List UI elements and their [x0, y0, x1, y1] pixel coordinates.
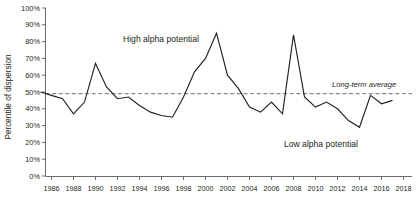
x-tick-label: 1988 [66, 184, 82, 193]
y-axis-title-text: Percentile of dispersion [4, 54, 13, 140]
chart-container: Percentile of dispersion 100% 90% 80% 70… [0, 0, 418, 205]
y-axis-title: Percentile of dispersion [4, 54, 13, 140]
y-tick-label: 20% [25, 138, 40, 147]
x-tick-label: 1986 [44, 184, 60, 193]
x-tick-label: 2010 [308, 184, 324, 193]
long-term-average-label: Long-term average [332, 80, 396, 89]
y-tick-label: 100% [21, 4, 40, 13]
x-tick-label: 2006 [264, 184, 280, 193]
y-tick-label: 30% [25, 121, 40, 130]
x-tick-label: 2012 [330, 184, 346, 193]
y-tick-label: 80% [25, 37, 40, 46]
y-tick-label: 50% [25, 88, 40, 97]
y-tick-label: 60% [25, 71, 40, 80]
x-tick-label: 1998 [176, 184, 192, 193]
dispersion-percentile-line-chart: Percentile of dispersion 100% 90% 80% 70… [0, 0, 418, 205]
y-tick-label: 70% [25, 54, 40, 63]
x-tick-label: 2014 [352, 184, 368, 193]
y-tick-label: 0% [29, 172, 40, 181]
y-tick-label: 90% [25, 20, 40, 29]
low-alpha-potential-annotation: Low alpha potential [284, 139, 358, 149]
high-alpha-potential-annotation: High alpha potential [123, 34, 199, 44]
x-axis-tick-labels: 1986 1988 1990 1992 1994 1996 1998 2000 … [44, 184, 412, 193]
x-tick-label: 2000 [198, 184, 214, 193]
y-tick-label: 40% [25, 104, 40, 113]
chart-background [0, 0, 418, 205]
x-tick-label: 1990 [88, 184, 104, 193]
x-tick-label: 2008 [286, 184, 302, 193]
y-tick-label: 10% [25, 155, 40, 164]
x-tick-label: 2002 [220, 184, 236, 193]
x-tick-label: 2004 [242, 184, 258, 193]
x-tick-label: 1992 [110, 184, 126, 193]
x-tick-label: 1994 [132, 184, 148, 193]
x-tick-label: 1996 [154, 184, 170, 193]
x-tick-label: 2018 [396, 184, 412, 193]
x-tick-label: 2016 [374, 184, 390, 193]
